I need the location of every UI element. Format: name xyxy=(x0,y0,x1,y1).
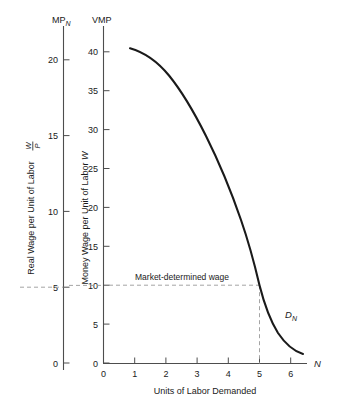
vmp-tick-label: 0 xyxy=(93,359,98,369)
vmp-tick-label: 30 xyxy=(88,125,98,135)
left-tick-label: 5 xyxy=(53,283,58,293)
left-tick-label: 15 xyxy=(48,131,58,141)
x-axis-ticks: 0 1 2 3 4 5 6 xyxy=(101,358,293,380)
vmp-axis-title-text: Money Wage per Unit of Labor W xyxy=(80,150,90,285)
vmp-axis-ticks: 0 5 10 15 20 25 30 35 40 xyxy=(88,47,110,368)
x-tick-label: 6 xyxy=(288,369,293,379)
x-tick-label: 1 xyxy=(132,369,137,379)
left-axis-title-fraction: W P xyxy=(24,142,42,151)
demand-curve-label: DN xyxy=(285,309,298,322)
x-tick-label: 0 xyxy=(101,369,106,379)
x-axis-variable-label: N xyxy=(314,358,321,369)
vmp-tick-label: 40 xyxy=(88,47,98,57)
wage-guide-lines xyxy=(20,285,260,363)
left-axis-title: Real Wage per Unit of Labor xyxy=(26,161,36,275)
fraction-denominator: P xyxy=(33,143,42,148)
left-axis-head-label: MPN xyxy=(52,15,72,27)
labor-demand-chart: MPN 0 5 10 15 20 Real Wage per Unit of L… xyxy=(0,0,341,418)
x-tick-label: 5 xyxy=(257,369,262,379)
fraction-numerator: W xyxy=(24,142,33,150)
vmp-axis-head-label: VMP xyxy=(92,15,112,25)
x-tick-label: 4 xyxy=(226,369,231,379)
left-axis-ticks: 0 5 10 15 20 xyxy=(48,55,70,368)
left-tick-label: 0 xyxy=(53,359,58,369)
vmp-tick-label: 35 xyxy=(88,86,98,96)
left-tick-label: 10 xyxy=(48,207,58,217)
left-tick-label: 20 xyxy=(48,55,58,65)
market-determined-wage-label: Market-determined wage xyxy=(135,272,229,282)
figure-panel: MPN 0 5 10 15 20 Real Wage per Unit of L… xyxy=(0,0,341,418)
vmp-axis-title: Money Wage per Unit of Labor W xyxy=(80,150,90,285)
main-axis-group: VMP 0 5 10 15 20 25 30 35 xyxy=(80,15,321,396)
x-tick-label: 2 xyxy=(163,369,168,379)
left-axis-title-text: Real Wage per Unit of Labor xyxy=(26,161,36,275)
left-axis-group: MPN 0 5 10 15 20 Real Wage per Unit of L… xyxy=(24,15,72,370)
x-axis-title: Units of Labor Demanded xyxy=(154,386,257,396)
demand-curve-DN xyxy=(130,48,303,354)
vmp-tick-label: 5 xyxy=(93,320,98,330)
x-tick-label: 3 xyxy=(195,369,200,379)
